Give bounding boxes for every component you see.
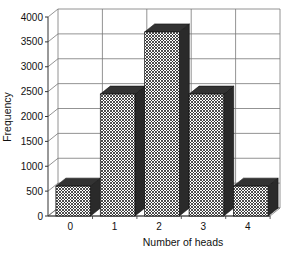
x-tick-label: 2	[156, 221, 162, 232]
x-axis-title: Number of heads	[143, 236, 224, 248]
y-tick-label: 2500	[21, 86, 44, 97]
y-tick-label: 4000	[21, 12, 44, 23]
chart-bars	[56, 24, 278, 216]
y-tick-label: 1000	[21, 161, 44, 172]
y-tick-label: 3000	[21, 61, 44, 72]
x-tick-label: 1	[112, 221, 118, 232]
x-tick-label: 0	[67, 221, 73, 232]
y-tick-label: 3500	[21, 36, 44, 47]
y-tick-label: 500	[26, 186, 43, 197]
y-tick-label: 2000	[21, 111, 44, 122]
bar-3	[189, 86, 234, 216]
x-tick-label: 4	[245, 221, 251, 232]
bar-2	[145, 24, 190, 216]
bar-1	[100, 86, 145, 216]
y-tick-label: 1500	[21, 136, 44, 147]
x-tick-label: 3	[201, 221, 207, 232]
frequency-bar-chart: 0500100015002000250030003500400001234Num…	[0, 0, 299, 253]
y-tick-label: 0	[37, 211, 43, 222]
bar-0	[56, 178, 101, 216]
bar-4	[233, 178, 278, 216]
y-axis-title: Frequency	[1, 91, 13, 141]
